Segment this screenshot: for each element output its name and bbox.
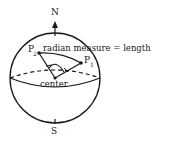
south-label: S: [51, 126, 57, 136]
p2-subscript: 2: [33, 50, 37, 57]
north-arrow-icon: [52, 21, 58, 28]
point-p2: [37, 51, 41, 55]
arc-p2-p1: [39, 53, 81, 63]
caption: radian measure = length: [43, 43, 151, 53]
point-p1: [79, 61, 83, 65]
north-label: N: [51, 7, 59, 17]
sphere-diagram: N S P 2 P 1 center radian measure = leng…: [0, 0, 180, 142]
p1-subscript: 1: [90, 61, 94, 68]
center-label: center: [40, 79, 69, 89]
